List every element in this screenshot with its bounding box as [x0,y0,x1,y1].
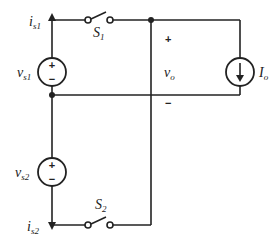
wires [52,20,240,225]
current-source-io [226,58,254,86]
svg-text:+: + [49,59,55,71]
switch-s1 [85,12,113,23]
circuit-diagram: + − + − is1 vs1 S1 vs2 is2 S2 Io + vo − [0,0,280,239]
current-arrow-is1-icon [48,13,56,21]
svg-text:+: + [49,159,55,171]
label-is1: is1 [29,14,41,31]
label-s1: S1 [93,25,105,42]
node-middle [49,92,55,98]
vo-plus: + [165,33,171,45]
label-vo: vo [164,65,175,82]
label-io: Io [258,65,269,82]
label-vs2: vs2 [15,165,30,182]
voltage-source-vs1: + − [38,58,66,86]
node-top [148,17,154,23]
label-is2: is2 [27,219,39,236]
svg-text:−: − [49,173,55,185]
svg-text:−: − [49,73,55,85]
switch-s2 [85,217,113,228]
label-vs1: vs1 [17,65,31,82]
current-arrow-is2-icon [48,222,56,230]
voltage-source-vs2: + − [38,158,66,186]
label-s2: S2 [95,197,107,214]
vo-minus: − [165,97,171,109]
